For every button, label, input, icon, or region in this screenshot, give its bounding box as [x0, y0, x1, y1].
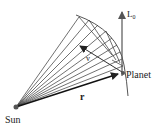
sun-dot [14, 105, 19, 110]
planet-label: Planet [126, 69, 151, 80]
planet-dot [121, 71, 125, 75]
swept-area-lines [16, 17, 123, 107]
L-label-subscript: 0 [133, 14, 136, 20]
orbit-diagram: Sun Planet r v L0 [0, 0, 163, 128]
r-label: r [80, 91, 85, 102]
position-vector-arrow [16, 74, 118, 107]
v-label: v [86, 54, 90, 63]
L-label: L0 [127, 9, 136, 20]
orbit-arc [76, 15, 128, 96]
sun-label: Sun [5, 114, 21, 125]
